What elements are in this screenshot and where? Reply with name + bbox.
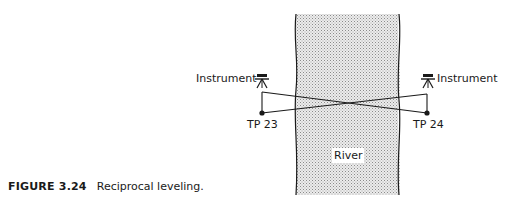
reciprocal-leveling-diagram: [0, 0, 516, 202]
tp24-marker: [424, 110, 429, 115]
river-label: River: [334, 149, 363, 162]
right-instrument-icon: [421, 74, 435, 88]
figure-caption-text: Reciprocal leveling.: [97, 180, 204, 193]
left-instrument-icon: [255, 74, 269, 88]
tp24-label: TP 24: [413, 118, 444, 131]
left-instrument-label: Instrument: [196, 72, 257, 85]
tp23-marker: [259, 110, 264, 115]
figure-number: FIGURE 3.24: [8, 180, 87, 193]
tp23-label: TP 23: [247, 118, 278, 131]
river-area: [295, 14, 400, 195]
figure-caption: FIGURE 3.24Reciprocal leveling.: [8, 180, 204, 193]
right-instrument-label: Instrument: [437, 72, 498, 85]
